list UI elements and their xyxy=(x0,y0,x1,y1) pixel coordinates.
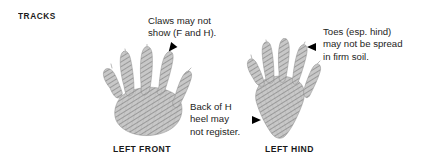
figure-caption-left-front: LEFT FRONT xyxy=(113,144,171,154)
animal-track-front-paw-icon xyxy=(96,44,204,144)
section-heading: TRACKS xyxy=(18,11,56,21)
figure-caption-left-hind: LEFT HIND xyxy=(265,144,314,154)
arrow-right-icon xyxy=(252,116,261,124)
annotation-claws-text: Claws may not show (F and H). xyxy=(148,15,216,40)
tracks-illustration-panel: TRACKS xyxy=(0,0,433,168)
annotation-heel-text: Back of H heel may not register. xyxy=(190,101,240,138)
annotation-toes-text: Toes (esp. hind) may not be spread in fi… xyxy=(323,26,402,63)
arrow-left-icon xyxy=(307,43,316,51)
animal-track-hind-paw-icon xyxy=(242,38,330,146)
